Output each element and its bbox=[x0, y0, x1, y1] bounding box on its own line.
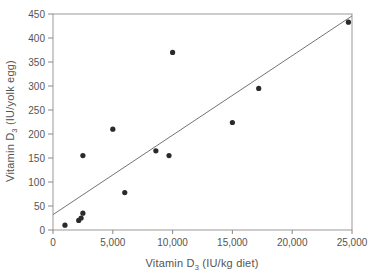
y-tick-label: 300 bbox=[28, 81, 45, 92]
x-tick-label: 5,000 bbox=[100, 237, 125, 248]
data-point bbox=[230, 120, 235, 125]
y-tick-label: 400 bbox=[28, 33, 45, 44]
y-axis-title-sub: 3 bbox=[10, 128, 19, 132]
trend-line bbox=[53, 16, 352, 215]
chart-figure: 05010015020025030035040045005,00010,0001… bbox=[0, 0, 372, 279]
x-axis-title: Vitamin D3 (IU/kg diet) bbox=[145, 257, 258, 269]
x-tick-label: 0 bbox=[50, 237, 56, 248]
y-tick-label: 450 bbox=[28, 9, 45, 20]
x-axis-title-unit: (IU/kg diet) bbox=[199, 257, 258, 269]
x-axis-title-text: Vitamin D bbox=[145, 257, 194, 269]
y-tick-label: 150 bbox=[28, 153, 45, 164]
y-tick-label: 0 bbox=[39, 225, 45, 236]
y-axis-title-text: Vitamin D bbox=[4, 133, 16, 182]
data-point bbox=[256, 86, 261, 91]
y-axis-title: Vitamin D3 (IU/yolk egg) bbox=[4, 60, 16, 182]
y-tick-label: 250 bbox=[28, 105, 45, 116]
data-point bbox=[62, 223, 67, 228]
data-point bbox=[346, 20, 351, 25]
data-point bbox=[122, 190, 127, 195]
y-tick-label: 50 bbox=[34, 201, 46, 212]
data-point bbox=[80, 153, 85, 158]
x-tick-label: 15,000 bbox=[217, 237, 248, 248]
y-axis-title-unit: (IU/yolk egg) bbox=[4, 60, 16, 128]
y-tick-label: 350 bbox=[28, 57, 45, 68]
data-point bbox=[170, 50, 175, 55]
data-point bbox=[79, 215, 84, 220]
y-tick-label: 200 bbox=[28, 129, 45, 140]
data-point bbox=[110, 127, 115, 132]
plot-border bbox=[53, 14, 352, 230]
y-tick-label: 100 bbox=[28, 177, 45, 188]
data-point bbox=[153, 148, 158, 153]
x-tick-label: 25,000 bbox=[337, 237, 368, 248]
x-tick-label: 20,000 bbox=[277, 237, 308, 248]
x-tick-label: 10,000 bbox=[157, 237, 188, 248]
data-point bbox=[166, 153, 171, 158]
scatter-plot: 05010015020025030035040045005,00010,0001… bbox=[0, 0, 372, 279]
data-point bbox=[80, 211, 85, 216]
